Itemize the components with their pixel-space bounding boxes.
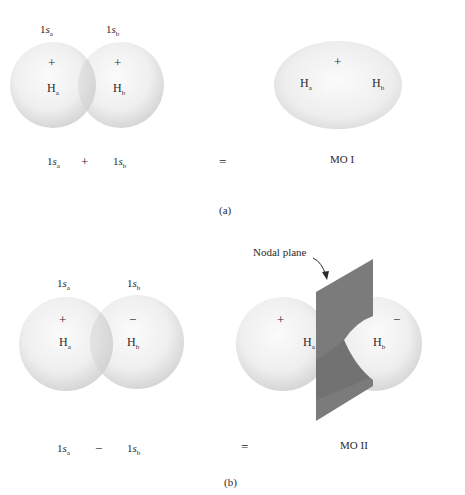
mo1-sign: + bbox=[334, 55, 341, 68]
atom-symbol: H bbox=[127, 335, 136, 349]
atom-symbol: H bbox=[303, 335, 312, 349]
panel-b-eq-term2: 1sb bbox=[127, 443, 140, 457]
panel-a-atom-b: Hb bbox=[113, 82, 125, 97]
panel-a-sign-a: + bbox=[48, 56, 55, 69]
term-text: 1s bbox=[113, 155, 123, 167]
label-sub: a bbox=[67, 284, 70, 292]
atom-sub: b bbox=[136, 343, 140, 351]
panel-b-sign-a: + bbox=[59, 313, 66, 326]
label-text: 1s bbox=[106, 23, 116, 35]
panel-a-orbital-a-label: 1sa bbox=[40, 24, 53, 38]
panel-a-caption: (a) bbox=[219, 205, 231, 216]
atom-sub: a bbox=[312, 343, 315, 351]
nodal-plane-label: Nodal plane bbox=[253, 247, 306, 258]
atom-symbol: H bbox=[300, 76, 309, 90]
panel-b-atom-a: Ha bbox=[59, 336, 71, 351]
atom-sub: a bbox=[309, 84, 312, 92]
mo1-atom-a: Ha bbox=[300, 77, 312, 92]
panel-a-orbital-b-label: 1sb bbox=[106, 24, 119, 38]
panel-b-eq-equals: = bbox=[241, 440, 248, 453]
atom-sub: a bbox=[56, 89, 59, 97]
mo2-label: MO II bbox=[340, 440, 368, 451]
term-sub: b bbox=[137, 449, 141, 457]
atom-sub: b bbox=[382, 343, 386, 351]
term-text: 1s bbox=[57, 442, 67, 454]
mo2-sign-b: − bbox=[393, 313, 400, 326]
panel-b-caption: (b) bbox=[224, 477, 237, 488]
atom-sub: b bbox=[381, 84, 385, 92]
atom-symbol: H bbox=[372, 76, 381, 90]
mo2-atom-b: Hb bbox=[373, 336, 385, 351]
panel-b-eq-operator: − bbox=[95, 442, 102, 455]
label-text: 1s bbox=[57, 277, 67, 289]
mo1-atom-b: Hb bbox=[372, 77, 384, 92]
arrowhead-icon bbox=[322, 271, 329, 280]
panel-b-sign-b: − bbox=[129, 313, 136, 326]
term-text: 1s bbox=[47, 155, 57, 167]
panel-b-atom-b: Hb bbox=[127, 336, 139, 351]
mo2-sign-a: + bbox=[277, 313, 284, 326]
panel-b-orbital-a-label: 1sa bbox=[57, 278, 70, 292]
term-sub: a bbox=[67, 449, 70, 457]
term-text: 1s bbox=[127, 442, 137, 454]
panel-a-eq-term1: 1sa bbox=[47, 156, 60, 170]
atom-symbol: H bbox=[59, 335, 68, 349]
atom-symbol: H bbox=[47, 81, 56, 95]
term-sub: b bbox=[123, 162, 127, 170]
panel-b-eq-term1: 1sa bbox=[57, 443, 70, 457]
panel-b-orbital-b-label: 1sb bbox=[127, 278, 140, 292]
label-sub: b bbox=[137, 284, 141, 292]
atom-symbol: H bbox=[113, 81, 122, 95]
panel-a-eq-equals: = bbox=[219, 155, 226, 168]
diagram-graphics bbox=[0, 0, 465, 495]
mo1-label: MO I bbox=[330, 154, 354, 165]
panel-a-eq-operator: + bbox=[81, 155, 88, 168]
atom-sub: b bbox=[122, 89, 126, 97]
label-sub: a bbox=[50, 30, 53, 38]
label-sub: b bbox=[116, 30, 120, 38]
atom-sub: a bbox=[68, 343, 71, 351]
mo2-atom-a: Ha bbox=[303, 336, 315, 351]
atom-symbol: H bbox=[373, 335, 382, 349]
panel-a-sign-b: + bbox=[114, 56, 121, 69]
label-text: 1s bbox=[40, 23, 50, 35]
panel-a-atom-a: Ha bbox=[47, 82, 59, 97]
label-text: 1s bbox=[127, 277, 137, 289]
panel-a-eq-term2: 1sb bbox=[113, 156, 126, 170]
term-sub: a bbox=[57, 162, 60, 170]
